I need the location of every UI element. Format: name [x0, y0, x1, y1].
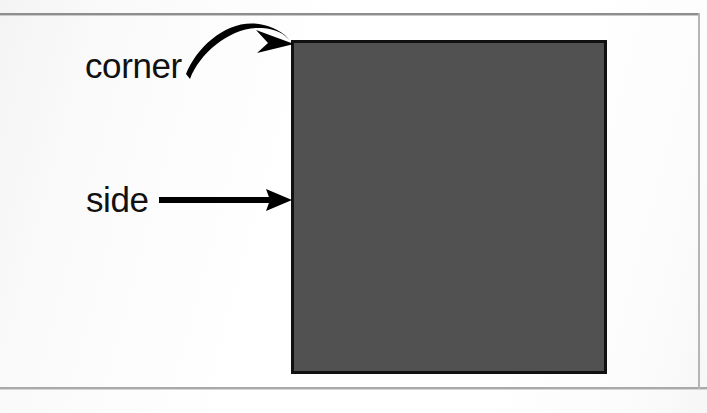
arrow-layer [0, 0, 707, 413]
curved-arrow-head [256, 30, 294, 53]
figure-page: corner side [0, 0, 707, 413]
straight-arrow-shaft [159, 197, 274, 203]
straight-arrow-to-side [159, 189, 292, 211]
curved-arrow-shaft [186, 23, 290, 79]
curved-arrow-to-corner [186, 23, 294, 79]
